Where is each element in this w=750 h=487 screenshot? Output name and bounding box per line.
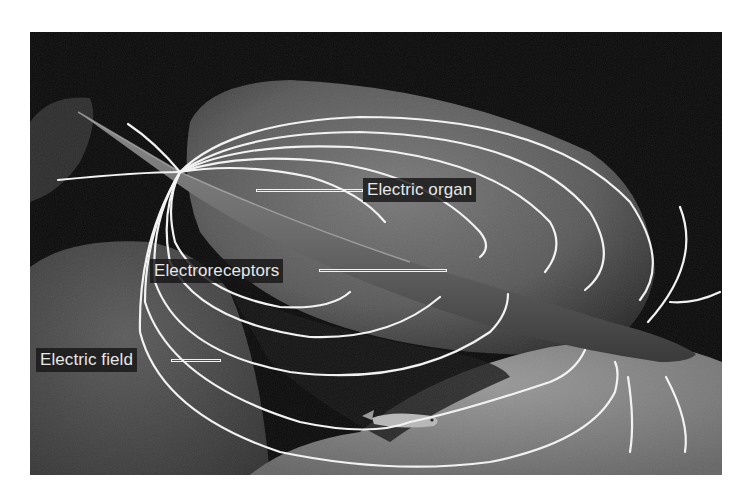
electric-organ-label: Electric organ: [363, 178, 476, 202]
electroreceptors-leader-line: [319, 269, 447, 272]
electric-organ-leader-line: [256, 189, 363, 192]
electroreceptors-label: Electroreceptors: [150, 259, 283, 283]
electric-field-label: Electric field: [36, 348, 137, 372]
electric-fish-figure: Electric organ Electroreceptors Electric…: [30, 32, 722, 475]
photo-scene: [30, 32, 722, 475]
electric-field-leader-line: [171, 359, 221, 362]
